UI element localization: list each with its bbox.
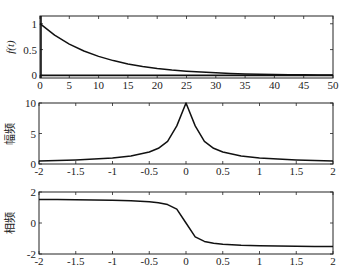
time-domain-plot: 0510152025303540455000.51f(t) bbox=[4, 16, 339, 91]
x-tick-label: 0 bbox=[183, 255, 189, 267]
x-tick-label: 15 bbox=[122, 79, 134, 91]
x-tick-label: 5 bbox=[67, 79, 73, 91]
x-tick-label: 30 bbox=[210, 79, 222, 91]
phase-plot: -2-1.5-1-0.500.511.52-202相频 bbox=[3, 186, 336, 267]
y-tick-label: 10 bbox=[25, 97, 37, 109]
x-tick-label: 2 bbox=[330, 165, 336, 177]
x-tick-label: -1 bbox=[108, 165, 117, 177]
x-tick-label: 2 bbox=[330, 255, 336, 267]
y-tick-label: -2 bbox=[27, 248, 36, 260]
x-tick-label: -0.5 bbox=[141, 255, 159, 267]
y-tick-label: 0 bbox=[31, 158, 37, 170]
x-tick-label: 1.5 bbox=[289, 165, 303, 177]
x-tick-label: 1 bbox=[257, 255, 263, 267]
magnitude-plot: -2-1.5-1-0.500.511.520510幅频 bbox=[3, 97, 336, 177]
y-axis-label: 幅频 bbox=[3, 123, 16, 145]
x-tick-label: 45 bbox=[298, 79, 310, 91]
y-tick-label: 5 bbox=[31, 128, 37, 140]
x-tick-label: 1.5 bbox=[289, 255, 303, 267]
y-tick-label: 0.5 bbox=[23, 44, 37, 56]
x-tick-label: -0.5 bbox=[141, 165, 159, 177]
figure: 0510152025303540455000.51f(t)-2-1.5-1-0.… bbox=[0, 0, 345, 279]
y-axis-label: 相频 bbox=[3, 212, 16, 234]
axes-frame bbox=[39, 103, 333, 164]
x-tick-label: 10 bbox=[93, 79, 105, 91]
x-tick-label: 50 bbox=[328, 79, 340, 91]
x-tick-label: -1.5 bbox=[67, 165, 85, 177]
y-tick-label: 0 bbox=[32, 69, 38, 81]
y-axis-label: f(t) bbox=[4, 40, 17, 54]
x-tick-label: 0 bbox=[183, 165, 189, 177]
y-tick-label: 2 bbox=[31, 186, 37, 198]
x-tick-label: 25 bbox=[181, 79, 193, 91]
x-tick-label: 0.5 bbox=[216, 165, 230, 177]
y-tick-label: 1 bbox=[32, 18, 38, 30]
x-tick-label: 1 bbox=[257, 165, 263, 177]
x-tick-label: 0 bbox=[37, 79, 43, 91]
x-tick-label: -1 bbox=[108, 255, 117, 267]
x-tick-label: -1.5 bbox=[67, 255, 85, 267]
x-tick-label: 40 bbox=[269, 79, 281, 91]
y-tick-label: 0 bbox=[31, 217, 37, 229]
axes-frame bbox=[40, 16, 333, 78]
x-tick-label: 20 bbox=[152, 79, 164, 91]
x-tick-label: 35 bbox=[240, 79, 252, 91]
x-tick-label: 0.5 bbox=[216, 255, 230, 267]
